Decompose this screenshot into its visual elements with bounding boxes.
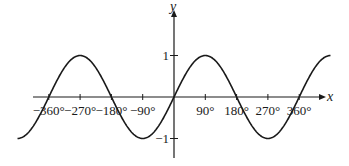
x-tick-label: 90° (196, 103, 214, 118)
x-axis-arrow-icon (319, 94, 326, 100)
x-tick-label: −180° (95, 103, 127, 118)
y-tick-label: −1 (155, 131, 169, 146)
sine-graph: −360°−270°−180°−90°90°180°270°360°1−1 x … (0, 0, 349, 166)
x-axis-label: x (326, 89, 334, 104)
x-tick-label: −360° (33, 103, 65, 118)
y-tick-label: 1 (163, 48, 170, 63)
y-axis-label: y (168, 0, 177, 14)
x-tick-label: −90° (130, 103, 156, 118)
x-tick-label: −270° (64, 103, 96, 118)
x-tick-label: 270° (256, 103, 281, 118)
